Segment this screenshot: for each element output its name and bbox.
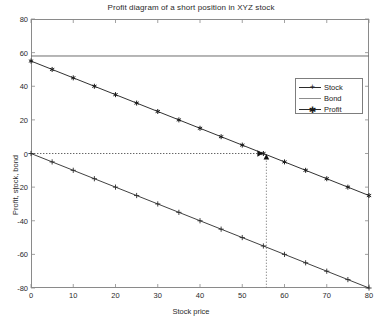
x-tick-label: 50	[227, 291, 257, 300]
legend-label-profit: Profit	[324, 105, 342, 114]
chart-canvas	[0, 0, 382, 321]
legend-swatch-stock: +	[299, 83, 321, 92]
y-tick-label: 60	[2, 48, 28, 57]
legend-label-bond: Bond	[324, 94, 342, 103]
legend-item-bond[interactable]: Bond	[299, 93, 362, 103]
x-axis-title: Stock price	[0, 307, 382, 316]
y-tick-label: -40	[2, 216, 28, 225]
y-tick-label: 40	[2, 82, 28, 91]
y-tick-label: -60	[2, 250, 28, 259]
x-tick-label: 70	[312, 291, 342, 300]
y-axis-title: Profit, stock, bond	[11, 155, 20, 215]
x-tick-label: 0	[16, 291, 46, 300]
chart-legend[interactable]: + Stock Bond ✱ Profit	[295, 78, 363, 114]
legend-swatch-profit: ✱	[299, 105, 321, 114]
legend-swatch-bond	[299, 94, 321, 103]
legend-item-profit[interactable]: ✱ Profit	[299, 104, 362, 114]
x-tick-label: 60	[270, 291, 300, 300]
y-tick-label: 20	[2, 115, 28, 124]
x-tick-label: 80	[354, 291, 382, 300]
x-tick-label: 40	[185, 291, 215, 300]
x-tick-label: 30	[143, 291, 173, 300]
legend-label-stock: Stock	[324, 83, 343, 92]
x-tick-label: 10	[58, 291, 88, 300]
x-tick-label: 20	[101, 291, 131, 300]
legend-item-stock[interactable]: + Stock	[299, 82, 362, 92]
y-tick-label: 80	[2, 15, 28, 24]
annotation-layer	[31, 150, 269, 288]
chart-figure: Profit diagram of a short position in XY…	[0, 0, 382, 321]
